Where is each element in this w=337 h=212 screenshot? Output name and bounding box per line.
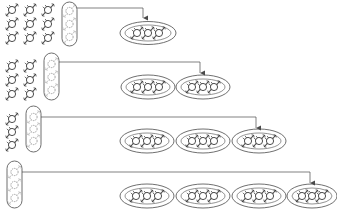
stage-3-bin-2: [176, 129, 230, 153]
stage-2-remaining-items: [6, 60, 36, 100]
stage-2: [6, 53, 230, 100]
stage-4-selected-group: [7, 161, 22, 208]
stage-3-bin-3: [232, 129, 286, 153]
stage-2-bin-2: [176, 75, 230, 99]
stage-3-remaining-items: [6, 113, 18, 151]
stage-4-move-arrow: [22, 172, 310, 183]
stage-1-selected-group: [62, 2, 77, 46]
stage-3: [6, 106, 286, 153]
stage-4-bin-3: [232, 184, 286, 208]
stage-1-move-arrow: [77, 8, 143, 18]
stage-3-bin-1: [120, 129, 174, 153]
stage-4-bin-2: [176, 184, 230, 208]
stage-2-selected-group: [44, 53, 59, 100]
stage-3-move-arrow: [41, 117, 256, 128]
stage-1-remaining-items: [6, 4, 54, 44]
stage-2-bin-1: [121, 75, 175, 99]
stage-4: [7, 161, 337, 208]
stage-1: [6, 2, 176, 46]
stage-1-bin-1: [120, 22, 176, 45]
stage-4-bin-4: [287, 184, 337, 208]
grouping-diagram: [0, 0, 337, 212]
stage-2-move-arrow: [59, 62, 200, 73]
stage-4-bin-1: [120, 184, 174, 208]
stage-3-selected-group: [26, 106, 41, 152]
